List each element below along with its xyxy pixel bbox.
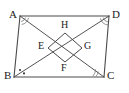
- point-label-E: E: [38, 41, 44, 51]
- side-AB: [14, 16, 20, 77]
- angle-mark-C: [93, 69, 98, 76]
- vertex-label-D: D: [112, 9, 120, 20]
- point-label-G: G: [84, 41, 91, 51]
- angle-mark-A: [21, 18, 29, 25]
- point-label-H: H: [61, 20, 68, 30]
- vertex-label-A: A: [9, 9, 17, 20]
- side-DC: [104, 16, 109, 77]
- geometry-figure: A D B C E H G F: [0, 0, 129, 93]
- vertex-label-B: B: [4, 70, 11, 81]
- angle-dot-B-2: [23, 72, 25, 74]
- vertex-label-C: C: [107, 70, 114, 81]
- angle-dot-B-1: [19, 69, 21, 71]
- point-label-F: F: [61, 63, 67, 73]
